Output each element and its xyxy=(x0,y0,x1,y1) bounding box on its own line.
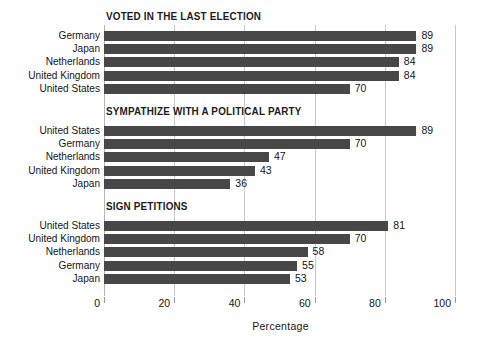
bar xyxy=(104,84,350,94)
x-tick-label: 80 xyxy=(369,297,385,309)
bar-row: Netherlands84 xyxy=(0,57,485,68)
bar-value-label: 36 xyxy=(235,178,247,189)
bar-row: Germany89 xyxy=(0,31,485,42)
bar-row: Germany55 xyxy=(0,261,485,272)
category-label: United States xyxy=(0,220,100,231)
x-tick-label: 40 xyxy=(229,297,245,309)
category-label: Germany xyxy=(0,138,100,149)
x-tick-label: 100 xyxy=(433,297,455,309)
bar-chart-figure: VOTED IN THE LAST ELECTIONGermany89Japan… xyxy=(0,0,485,350)
bar xyxy=(104,44,416,54)
category-label: Japan xyxy=(0,178,100,189)
bar-row: Netherlands58 xyxy=(0,247,485,258)
bar xyxy=(104,126,416,136)
x-tick-mark xyxy=(104,297,105,303)
bar xyxy=(104,247,308,257)
bar-value-label: 70 xyxy=(355,138,367,149)
bar-row: Japan89 xyxy=(0,44,485,55)
x-tick-mark xyxy=(385,297,386,303)
bar-row: Netherlands47 xyxy=(0,152,485,163)
bar xyxy=(104,71,399,81)
x-tick-label: 0 xyxy=(94,297,104,309)
category-label: United Kingdom xyxy=(0,70,100,81)
bar-value-label: 43 xyxy=(260,165,272,176)
bar-row: Japan53 xyxy=(0,274,485,285)
bar-row: United Kingdom43 xyxy=(0,166,485,177)
x-tick-mark xyxy=(174,297,175,303)
category-label: United States xyxy=(0,83,100,94)
x-axis-title-label: Percentage xyxy=(252,320,309,332)
x-axis: 020406080100 xyxy=(0,297,485,311)
bar xyxy=(104,152,269,162)
bar xyxy=(104,179,230,189)
bar-value-label: 70 xyxy=(355,83,367,94)
category-label: Netherlands xyxy=(0,246,100,257)
group-title: VOTED IN THE LAST ELECTION xyxy=(106,10,261,22)
bar xyxy=(104,139,350,149)
bar-row: United States70 xyxy=(0,84,485,95)
bar-value-label: 55 xyxy=(302,260,314,271)
group-title: SIGN PETITIONS xyxy=(106,200,188,212)
bar-value-label: 84 xyxy=(404,56,416,67)
category-label: United Kingdom xyxy=(0,165,100,176)
x-tick-label: 20 xyxy=(159,297,175,309)
category-label: United States xyxy=(0,125,100,136)
bar-row: Japan36 xyxy=(0,179,485,190)
x-tick-mark xyxy=(455,297,456,303)
bar xyxy=(104,261,297,271)
group-title: SYMPATHIZE WITH A POLITICAL PARTY xyxy=(106,105,302,117)
bar-row: United Kingdom84 xyxy=(0,71,485,82)
x-axis-title: Percentage xyxy=(0,320,485,332)
bar-value-label: 53 xyxy=(295,273,307,284)
x-tick-mark xyxy=(315,297,316,303)
bar-value-label: 70 xyxy=(355,233,367,244)
bar xyxy=(104,234,350,244)
category-label: Japan xyxy=(0,43,100,54)
bar-value-label: 89 xyxy=(421,43,433,54)
x-tick-mark xyxy=(244,297,245,303)
bar xyxy=(104,221,388,231)
category-label: United Kingdom xyxy=(0,233,100,244)
bar xyxy=(104,31,416,41)
bar-value-label: 47 xyxy=(274,151,286,162)
bar-row: United States81 xyxy=(0,221,485,232)
bar-value-label: 58 xyxy=(313,246,325,257)
category-label: Germany xyxy=(0,260,100,271)
bar-value-label: 89 xyxy=(421,30,433,41)
category-label: Netherlands xyxy=(0,56,100,67)
bar-value-label: 81 xyxy=(393,220,405,231)
bar-row: United Kingdom70 xyxy=(0,234,485,245)
bar-row: Germany70 xyxy=(0,139,485,150)
bar xyxy=(104,166,255,176)
bar-value-label: 84 xyxy=(404,70,416,81)
bar-value-label: 89 xyxy=(421,125,433,136)
bar xyxy=(104,57,399,67)
category-label: Japan xyxy=(0,273,100,284)
category-label: Germany xyxy=(0,30,100,41)
category-label: Netherlands xyxy=(0,151,100,162)
bar xyxy=(104,274,290,284)
x-tick-label: 60 xyxy=(299,297,315,309)
bar-row: United States89 xyxy=(0,126,485,137)
